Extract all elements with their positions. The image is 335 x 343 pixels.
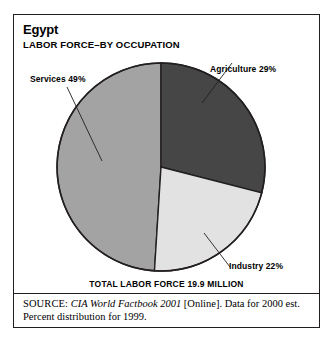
slice-label-services: Services 49% — [30, 74, 86, 84]
source-divider — [14, 293, 319, 294]
source-kicker: SOURCE: — [23, 298, 68, 309]
pie-slice-services — [57, 63, 161, 271]
source-note: SOURCE: CIA World Factbook 2001 [Online]… — [23, 298, 311, 323]
chart-figure: Egypt LABOR FORCE–BY OCCUPATION Agricult… — [13, 14, 320, 328]
slice-label-industry: Industry 22% — [229, 261, 283, 271]
slice-label-agriculture: Agriculture 29% — [210, 64, 276, 74]
total-labor-force-annotation: TOTAL LABOR FORCE 19.9 MILLION — [14, 279, 319, 289]
source-work-title: CIA World Factbook 2001 — [71, 298, 182, 309]
